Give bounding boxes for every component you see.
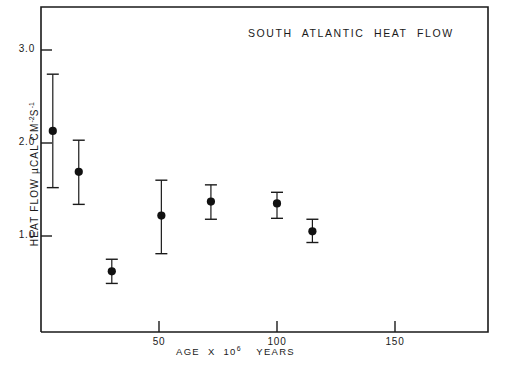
data-point-group — [306, 219, 318, 242]
data-series-heat-flow — [47, 74, 319, 283]
data-point-marker — [273, 199, 281, 207]
y-axis-label-exponent-1: -2 — [28, 116, 35, 122]
y-axis-label-exponent-2: -1 — [28, 102, 35, 108]
heat-flow-figure: SOUTH ATLANTIC HEAT FLOW HEAT FLOW µCAL … — [0, 0, 514, 365]
data-point-marker — [207, 197, 215, 205]
x-axis-label-prefix: AGE X 10 — [176, 346, 237, 357]
y-tick-label: 2.0 — [5, 136, 35, 147]
chart-title: SOUTH ATLANTIC HEAT FLOW — [248, 27, 454, 39]
x-tick-label: 150 — [380, 336, 410, 347]
data-point-marker — [308, 227, 316, 235]
data-point-group — [73, 140, 85, 204]
data-point-group — [106, 259, 118, 283]
plot-canvas — [0, 0, 514, 365]
data-point-marker — [108, 267, 116, 275]
y-axis-label: HEAT FLOW µCAL CM-2S-1 — [28, 74, 40, 274]
x-axis-ticks — [159, 321, 395, 332]
data-point-group — [271, 192, 283, 218]
x-tick-label: 100 — [262, 336, 292, 347]
y-axis-label-mid: S — [29, 108, 40, 116]
x-axis-label-exponent: 6 — [237, 345, 241, 352]
y-tick-label: 3.0 — [5, 43, 35, 54]
data-point-marker — [49, 127, 57, 135]
data-point-marker — [75, 168, 83, 176]
data-point-marker — [157, 211, 165, 219]
x-tick-label: 50 — [144, 336, 174, 347]
x-axis-label-suffix: YEARS — [256, 346, 295, 357]
data-point-group — [205, 185, 217, 219]
data-point-group — [155, 180, 167, 253]
y-axis-ticks — [41, 50, 52, 236]
data-point-group — [47, 74, 59, 187]
y-tick-label: 1.0 — [5, 229, 35, 240]
